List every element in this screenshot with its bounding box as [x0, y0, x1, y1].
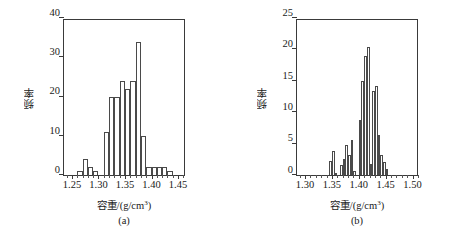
x-tick-minor	[391, 175, 392, 178]
histogram-bar	[332, 151, 335, 175]
x-tick-label: 1.30	[296, 180, 314, 191]
x-tick-minor	[67, 175, 68, 178]
x-tick-label: 1.30	[89, 180, 107, 191]
x-tick-minor	[88, 175, 89, 178]
x-tick-minor	[83, 175, 84, 178]
x-tick-minor	[141, 175, 142, 178]
x-tick-minor	[402, 175, 403, 178]
x-tick-minor	[104, 175, 105, 178]
x-tick-label: 1.40	[350, 180, 368, 191]
x-tick-minor	[375, 175, 376, 178]
x-tick-minor	[93, 175, 94, 178]
x-tick-minor	[130, 175, 131, 178]
x-tick-label: 1.25	[63, 180, 81, 191]
x-tick-minor	[114, 175, 115, 178]
x-tick-minor	[327, 175, 328, 178]
y-tick-label: 20	[283, 39, 294, 50]
x-tick-label: 1.45	[169, 180, 187, 191]
y-tick-label: 10	[283, 102, 294, 113]
panel-b: 频率 0510152025 1.301.351.401.451.50 容重/(g…	[233, 0, 466, 245]
x-tick-minor	[316, 175, 317, 178]
x-tick-minor	[173, 175, 174, 178]
x-tick-minor	[146, 175, 147, 178]
histogram-figure: 频率 010203040 1.251.301.351.401.45 容重/(g/…	[0, 0, 466, 245]
y-tick-label: 0	[288, 165, 293, 176]
x-tick-minor	[162, 175, 163, 178]
y-tick-label: 10	[50, 125, 61, 136]
x-axis-label-a: 容重/(g/cm3)	[63, 197, 185, 212]
histogram-bar	[367, 47, 370, 175]
y-axis-label-b: 频率	[255, 19, 269, 176]
x-tick-label: 1.50	[403, 180, 421, 191]
bar-series-a	[64, 20, 184, 175]
panel-a: 频率 010203040 1.251.301.351.401.45 容重/(g/…	[0, 0, 233, 245]
x-tick-label: 1.40	[142, 180, 160, 191]
x-tick-minor	[418, 175, 419, 178]
x-tick-minor	[407, 175, 408, 178]
plot-area-a: 010203040 1.251.301.351.401.45	[63, 19, 185, 176]
x-tick-minor	[364, 175, 365, 178]
x-tick-label: 1.35	[116, 180, 134, 191]
x-tick-minor	[120, 175, 121, 178]
histogram-bar	[351, 140, 354, 175]
x-tick-minor	[300, 175, 301, 178]
y-tick-label: 20	[50, 86, 61, 97]
x-tick-label: 1.35	[323, 180, 341, 191]
y-tick-label: 0	[55, 165, 60, 176]
y-tick-label: 25	[283, 8, 294, 19]
x-tick-minor	[157, 175, 158, 178]
x-tick-minor	[337, 175, 338, 178]
x-tick-minor	[353, 175, 354, 178]
y-tick-label: 30	[50, 47, 61, 58]
x-tick-minor	[396, 175, 397, 178]
x-tick-minor	[77, 175, 78, 178]
plot-area-b: 0510152025 1.301.351.401.451.50	[296, 19, 418, 176]
x-tick-minor	[343, 175, 344, 178]
x-axis-label-b: 容重/(g/cm3)	[296, 197, 418, 212]
panel-caption-a: (a)	[63, 215, 185, 226]
x-tick-minor	[380, 175, 381, 178]
y-axis-label-a: 频率	[22, 19, 36, 176]
x-tick-minor	[348, 175, 349, 178]
y-axis-label-text-a: 频率	[22, 87, 37, 109]
y-tick-label: 15	[283, 70, 294, 81]
x-tick-minor	[321, 175, 322, 178]
x-tick-minor	[183, 175, 184, 178]
x-tick-label: 1.45	[376, 180, 394, 191]
bar-series-b	[297, 20, 417, 175]
y-axis-label-text-b: 频率	[255, 87, 270, 109]
x-tick-minor	[167, 175, 168, 178]
x-tick-minor	[310, 175, 311, 178]
x-tick-minor	[109, 175, 110, 178]
y-tick-label: 5	[288, 133, 293, 144]
panel-caption-b: (b)	[296, 215, 418, 226]
y-tick-label: 40	[50, 8, 61, 19]
x-tick-minor	[136, 175, 137, 178]
x-tick-minor	[370, 175, 371, 178]
